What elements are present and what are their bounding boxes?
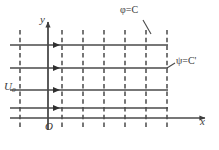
flow-arrow bbox=[53, 105, 60, 111]
streamline-label-leader bbox=[167, 63, 175, 68]
flow-arrows bbox=[53, 42, 60, 111]
flow-arrow bbox=[53, 65, 60, 71]
annotation-leaders bbox=[143, 20, 175, 68]
flow-arrow bbox=[53, 42, 60, 48]
streamlines bbox=[10, 45, 168, 108]
inflow-velocity-subscript: 0 bbox=[12, 86, 16, 94]
origin-label: O bbox=[45, 121, 53, 132]
y-axis-label: y bbox=[40, 14, 45, 25]
equipotential-label: φ=C bbox=[120, 5, 138, 15]
flow-arrow bbox=[53, 87, 60, 93]
coordinate-axes bbox=[10, 22, 205, 130]
streamline-label: ψ=C' bbox=[176, 56, 196, 66]
x-axis-label: x bbox=[200, 116, 205, 127]
figure-canvas bbox=[0, 0, 219, 150]
inflow-velocity-label: U0 bbox=[4, 81, 15, 94]
inflow-velocity-symbol: U bbox=[4, 80, 12, 92]
flow-net-figure: y x O U0 φ=C ψ=C' bbox=[0, 0, 219, 150]
equipotential-label-leader bbox=[143, 20, 151, 34]
